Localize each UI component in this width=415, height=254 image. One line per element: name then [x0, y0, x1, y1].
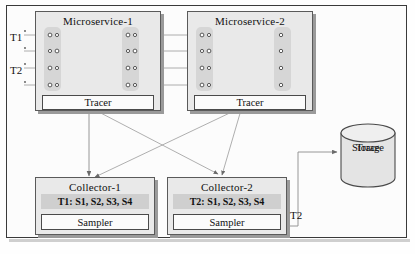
diagram-canvas: Microservice-1 Tracer Microservice-2 Tra… — [0, 0, 415, 254]
collector-2-sampler-label: Sampler — [210, 217, 245, 228]
microservice-2-span-band-left — [196, 27, 213, 91]
collector-2-spans-label: T2: S1, S2, S3, S4 — [190, 196, 265, 207]
collector-1-spans-label: T1: S1, S2, S3, S4 — [58, 196, 133, 207]
microservice-1-span-band-right — [122, 27, 139, 91]
microservice-1-tracer-label: Tracer — [84, 97, 111, 108]
trace-label-t2: T2 — [10, 64, 22, 76]
frame-shadow — [9, 239, 410, 242]
collector-2-spans: T2: S1, S2, S3, S4 — [173, 194, 281, 209]
collector-2-sampler[interactable]: Sampler — [173, 214, 281, 230]
collector-1-spans: T1: S1, S2, S3, S4 — [41, 194, 149, 209]
microservice-2-label: Microservice-2 — [188, 15, 312, 27]
microservice-2-tracer-label: Tracer — [236, 97, 263, 108]
edge-label-t2-to-storage: T2 — [290, 209, 302, 221]
microservice-1-label: Microservice-1 — [36, 15, 160, 27]
collector-1-sampler[interactable]: Sampler — [41, 214, 149, 230]
collector-1-label: Collector-1 — [36, 181, 154, 193]
collector-2-label: Collector-2 — [168, 181, 286, 193]
trace-label-t1: T1 — [10, 31, 22, 43]
microservice-1-tracer[interactable]: Tracer — [42, 95, 154, 110]
collector-1-sampler-label: Sampler — [78, 217, 113, 228]
microservice-2-tracer[interactable]: Tracer — [194, 95, 306, 110]
microservice-2-span-band-right — [274, 27, 291, 91]
microservice-1-span-band-left — [44, 27, 61, 91]
trace-storage-line-2: Storage — [341, 142, 395, 154]
